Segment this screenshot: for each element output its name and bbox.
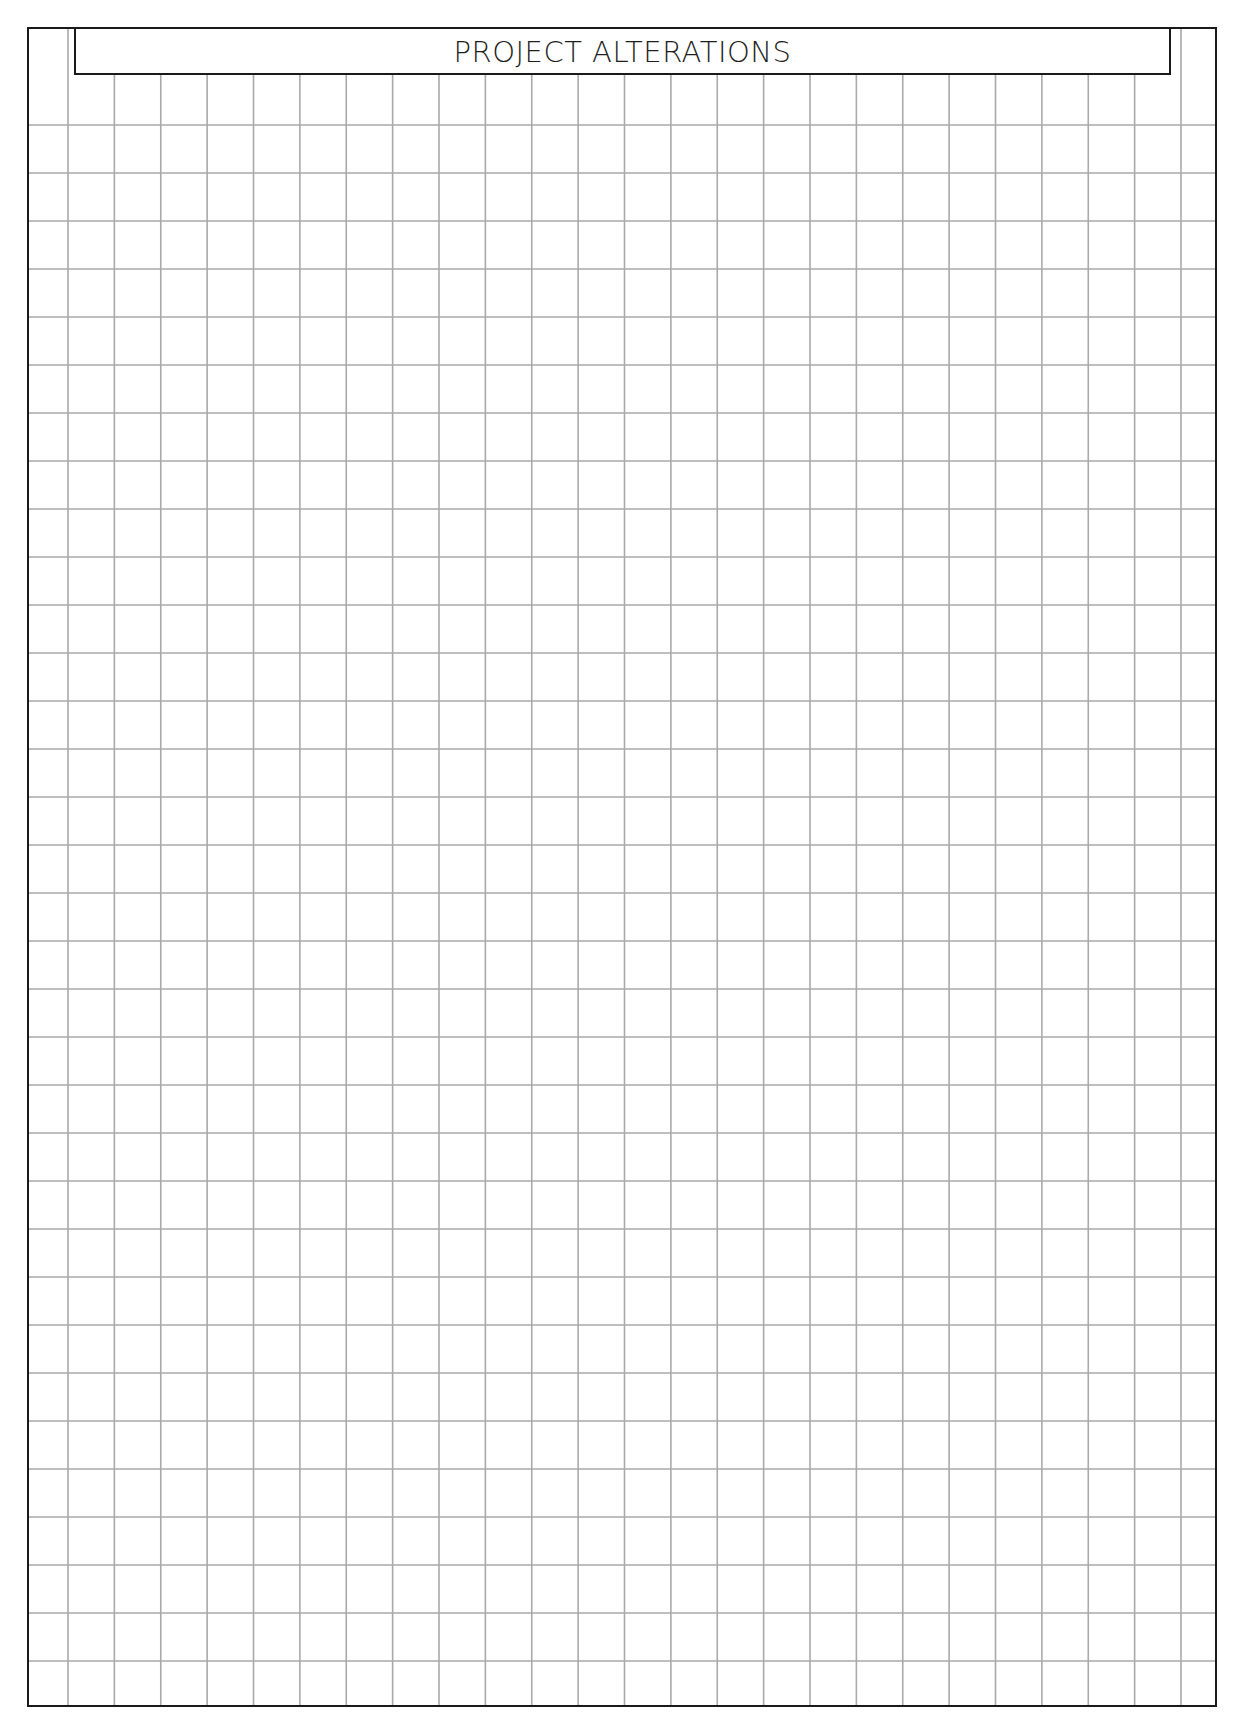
page-title: PROJECT ALTERATIONS bbox=[454, 36, 792, 67]
page-frame bbox=[27, 27, 1217, 1707]
title-header-box: PROJECT ALTERATIONS bbox=[74, 27, 1171, 75]
